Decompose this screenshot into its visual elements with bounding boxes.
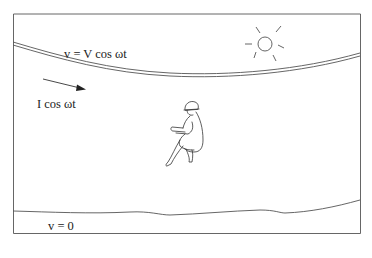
current-label: I cos ωt [37, 97, 76, 111]
seated-person-figure [166, 101, 203, 166]
ground-line [13, 200, 360, 215]
sun-icon [245, 26, 284, 61]
wire-voltage-label: v = V cos ωt [64, 47, 127, 61]
power-line-diagram: v = V cos ωt I cos ωt v = 0 [0, 0, 372, 258]
arrow-right-icon [43, 79, 86, 91]
ground-voltage-label: v = 0 [48, 219, 74, 233]
